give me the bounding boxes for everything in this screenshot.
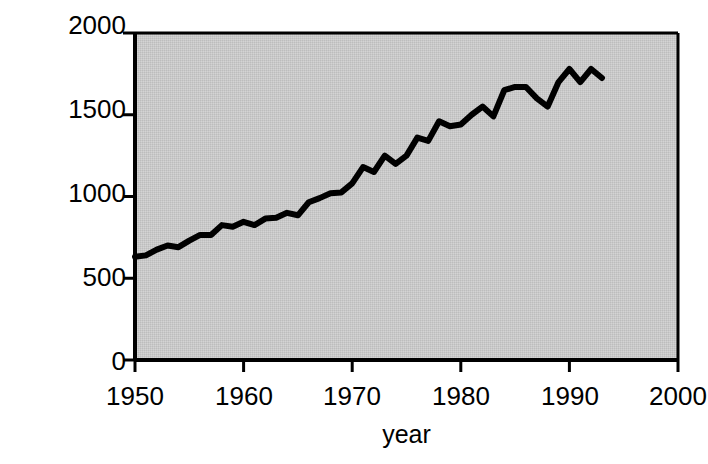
chart-figure: Grain Produced (millions of tons) 2000 1… [0,0,708,464]
plot-background [135,33,678,360]
chart-plot-area [0,0,708,464]
